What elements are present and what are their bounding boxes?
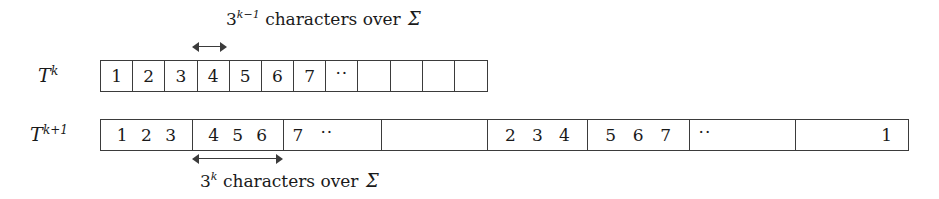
span-arrow-top — [192, 41, 227, 52]
annotation-top-base: 3 — [226, 9, 237, 29]
tape-expansion-diagram: 3k−1 characters over Σ Tk 1 2 3 4 5 6 7 … — [0, 0, 939, 199]
tape-symbol: 4 — [559, 127, 570, 144]
tape-block: ·· — [690, 120, 797, 150]
ellipsis-glyph: ·· — [335, 65, 348, 82]
tape-symbol: 7 — [293, 127, 304, 144]
tape-cell — [358, 61, 390, 91]
tape-symbol: 5 — [605, 127, 616, 144]
annotation-top-text: characters over — [265, 9, 401, 29]
tape-block: 1 — [796, 120, 908, 150]
sigma-symbol-bottom: Σ — [364, 170, 379, 191]
tape-cell: 3 — [165, 61, 197, 91]
tape-cell: 1 — [101, 61, 133, 91]
tape-block-empty — [382, 120, 488, 150]
tape-cell — [391, 61, 423, 91]
tape-symbol: 6 — [256, 127, 267, 144]
arrow-shaft — [196, 46, 223, 47]
row-label-tk1-base: T — [30, 123, 43, 145]
tape-block: 1 2 3 — [101, 120, 193, 150]
annotation-bottom-exponent: k — [211, 170, 218, 183]
ellipsis-glyph: ·· — [699, 124, 712, 141]
tape-cell: 7 — [294, 61, 326, 91]
tape-cell: 5 — [230, 61, 262, 91]
arrow-shaft — [196, 158, 279, 159]
tape-symbol: 1 — [881, 127, 892, 144]
tape-symbol: 1 — [117, 127, 128, 144]
row-label-tk1-exponent: k+1 — [43, 123, 68, 137]
tape-symbol: 4 — [208, 127, 219, 144]
annotation-bottom-base: 3 — [200, 171, 211, 191]
tape-symbol: 6 — [633, 127, 644, 144]
arrow-head-right-icon — [276, 154, 283, 164]
tape-symbol: 2 — [505, 127, 516, 144]
tape-symbol: 3 — [165, 127, 176, 144]
ellipsis-glyph: ·· — [320, 124, 333, 141]
tape-block: 4 5 6 — [193, 120, 284, 150]
tape-block: 5 6 7 — [588, 120, 690, 150]
annotation-bottom-label: 3k characters over Σ — [200, 170, 379, 191]
arrow-head-right-icon — [220, 42, 227, 52]
row-label-tk: Tk — [38, 64, 58, 86]
annotation-top-exponent: k−1 — [237, 8, 260, 21]
tape-cell: 2 — [133, 61, 165, 91]
tape-cell — [423, 61, 455, 91]
tape-symbol: 5 — [232, 127, 243, 144]
tape-row-tk: 1 2 3 4 5 6 7 ·· — [100, 60, 488, 92]
tape-symbol: 7 — [660, 127, 671, 144]
tape-row-tk1: 1 2 3 4 5 6 7 ·· 2 3 4 5 6 7 ·· 1 — [100, 119, 909, 151]
tape-cell — [455, 61, 487, 91]
tape-symbol: 3 — [532, 127, 543, 144]
row-label-tk1: Tk+1 — [30, 123, 68, 145]
tape-symbol: 2 — [141, 127, 152, 144]
tape-block: 7 ·· — [284, 120, 383, 150]
row-label-tk-exponent: k — [51, 64, 58, 78]
annotation-top-label: 3k−1 characters over Σ — [226, 8, 421, 29]
sigma-symbol-top: Σ — [406, 8, 421, 29]
tape-cell: ·· — [326, 61, 358, 91]
tape-cell: 4 — [198, 61, 230, 91]
row-label-tk-base: T — [38, 64, 51, 86]
tape-block: 2 3 4 — [488, 120, 588, 150]
span-arrow-bottom — [192, 153, 283, 164]
tape-cell: 6 — [262, 61, 294, 91]
annotation-bottom-text: characters over — [223, 171, 359, 191]
